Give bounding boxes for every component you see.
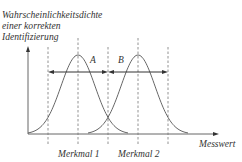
x-axis-label: Messwert <box>198 139 236 149</box>
range-a-arrowhead-right <box>102 70 108 74</box>
y-axis-label-line-1: Wahrscheinlichkeitsdichte <box>2 9 103 20</box>
range-b-arrowhead-right <box>162 70 168 74</box>
y-axis-arrowhead <box>26 46 30 52</box>
range-a-label: A <box>89 55 96 65</box>
y-axis-label-line-3: Identifizierung <box>1 31 59 42</box>
identification-density-diagram: Wahrscheinlichkeitsdichte einer korrekte… <box>0 0 242 162</box>
range-a-arrowhead-left <box>48 70 54 74</box>
range-b-label: B <box>118 55 124 65</box>
range-b-arrowhead-left <box>108 70 114 74</box>
y-axis-label-line-2: einer korrekten <box>2 20 61 31</box>
feature-1-label: Merkmal 1 <box>57 149 99 159</box>
feature-2-label: Merkmal 2 <box>117 149 160 159</box>
x-axis-arrowhead <box>213 132 219 136</box>
